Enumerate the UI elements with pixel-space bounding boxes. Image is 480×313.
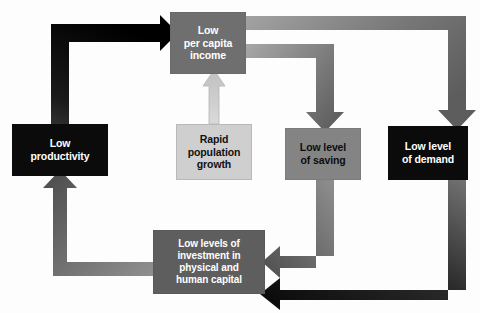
connector-demand-to-investment [260,180,466,310]
node-population-label: Rapid population growth [177,133,251,171]
node-low-level-of-demand[interactable]: Low level of demand [388,126,468,180]
node-low-level-of-saving[interactable]: Low level of saving [285,128,361,180]
connector-investment-to-productivity [43,170,153,276]
node-low-per-capita-income[interactable]: Low per capita income [170,12,246,74]
node-rapid-population-growth[interactable]: Rapid population growth [176,124,252,180]
node-income-label: Low per capita income [171,24,245,62]
node-investment-label: Low levels of investment in physical and… [154,238,264,287]
flow-diagram: Low per capita income Low productivity R… [0,0,480,313]
connector-income-to-saving [244,44,344,132]
connector-population-to-income [203,70,225,124]
connector-income-to-demand [244,16,476,130]
node-demand-label: Low level of demand [389,140,467,166]
node-low-productivity[interactable]: Low productivity [12,124,108,176]
node-low-levels-of-investment[interactable]: Low levels of investment in physical and… [153,230,265,294]
connector-saving-to-investment [262,180,334,278]
node-productivity-label: Low productivity [13,137,107,163]
node-saving-label: Low level of saving [286,141,360,167]
